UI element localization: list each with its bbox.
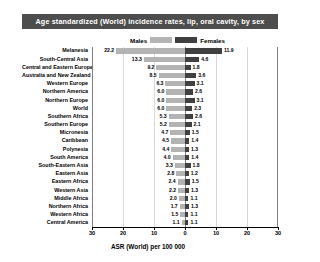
bar-female (185, 163, 191, 168)
bar-male (176, 171, 185, 176)
bar-row: 2.01.1 (92, 195, 278, 202)
bar-value-male: 9.2 (143, 64, 154, 71)
bar-female (185, 48, 222, 53)
bar-row: 1.51.1 (92, 211, 278, 218)
bar-value-male: 6.3 (152, 80, 163, 87)
bar-value-female: 2.3 (194, 105, 201, 112)
axis-tick-label: 0 (183, 230, 186, 236)
bar-value-male: 2.8 (163, 170, 174, 177)
bar-value-male: 6.0 (153, 97, 164, 104)
bar-value-female: 1.2 (191, 170, 198, 177)
bar-male (169, 114, 185, 119)
bar-male (171, 138, 185, 143)
bar-row: 2.21.3 (92, 187, 278, 194)
bar-value-male: 2.0 (166, 195, 177, 202)
bar-value-female: 3.1 (197, 80, 204, 87)
bar-female (185, 106, 192, 111)
category-label: Southern Africa (22, 113, 88, 120)
bar-row: 1.71.3 (92, 203, 278, 210)
bar-female (185, 179, 190, 184)
bar-value-female: 1.1 (190, 211, 197, 218)
bar-row: 6.03.1 (92, 97, 278, 104)
bar-row: 2.41.5 (92, 178, 278, 185)
bar-value-female: 2.6 (195, 88, 202, 95)
bar-value-male: 1.1 (169, 219, 180, 226)
category-label: Australia and New Zealand (22, 72, 88, 79)
bar-female (185, 65, 191, 70)
axis-tick-label: 10 (151, 230, 157, 236)
bar-value-female: 2.6 (195, 113, 202, 120)
category-label: Middle Africa (22, 195, 88, 202)
bar-row: 4.51.4 (92, 137, 278, 144)
bar-row: 8.53.6 (92, 72, 278, 79)
chart-title-bar: Age standardized (World) incidence rates… (22, 14, 278, 29)
bar-male (169, 122, 185, 127)
chart-legend: Males Females (130, 35, 225, 45)
bar-value-male: 8.5 (146, 72, 157, 79)
bar-female (185, 130, 190, 135)
x-axis-ticks: 3020100102030 (92, 227, 278, 237)
bar-value-female: 1.4 (191, 137, 198, 144)
category-label: Melanesia (22, 47, 88, 54)
plot-area: MelanesiaSouth-Central AsiaCentral and E… (22, 47, 278, 227)
bar-row: 13.34.6 (92, 56, 278, 63)
category-label: Western Europe (22, 80, 88, 87)
bar-value-female: 3.6 (198, 72, 205, 79)
bar-value-male: 6.0 (153, 105, 164, 112)
bar-male (116, 48, 185, 53)
category-label: South-Central Asia (22, 56, 88, 63)
bar-row: 4.01.4 (92, 154, 278, 161)
legend-swatch-females (175, 37, 197, 43)
category-label: Western Asia (22, 187, 88, 194)
bar-row: 4.71.5 (92, 129, 278, 136)
bar-value-male: 22.2 (103, 47, 114, 54)
bar-male (159, 73, 185, 78)
category-label: World (22, 105, 88, 112)
bar-male (175, 163, 185, 168)
bar-value-female: 1.3 (191, 203, 198, 210)
bar-female (185, 196, 188, 201)
bar-female (185, 212, 188, 217)
bar-value-female: 3.1 (197, 97, 204, 104)
bar-row: 2.81.2 (92, 170, 278, 177)
category-label: Eastern Africa (22, 178, 88, 185)
bar-male (171, 147, 185, 152)
bar-value-male: 4.5 (158, 137, 169, 144)
bar-female (185, 147, 189, 152)
category-label: Caribbean (22, 137, 88, 144)
bar-male (144, 57, 185, 62)
bars-area: 22.211.913.34.69.21.88.53.66.33.16.02.66… (92, 47, 278, 227)
bar-value-male: 4.7 (157, 129, 168, 136)
bar-value-male: 4.0 (160, 154, 171, 161)
page-title: Age standardized (World) incidence rates… (36, 17, 265, 26)
bar-row: 22.211.9 (92, 47, 278, 54)
bar-male (173, 155, 185, 160)
bar-female (185, 73, 196, 78)
bar-male (165, 81, 185, 86)
bar-value-female: 1.5 (192, 178, 199, 185)
bar-value-male: 13.3 (131, 56, 142, 63)
category-label-column: MelanesiaSouth-Central AsiaCentral and E… (22, 47, 92, 227)
bar-value-female: 2.1 (194, 121, 201, 128)
bar-row: 5.22.1 (92, 121, 278, 128)
bar-row: 5.32.6 (92, 113, 278, 120)
legend-swatch-males (150, 37, 172, 43)
bar-value-male: 1.7 (167, 203, 178, 210)
bar-value-male: 5.3 (156, 113, 167, 120)
axis-tick-label: 20 (120, 230, 126, 236)
bar-row: 9.21.8 (92, 64, 278, 71)
axis-tick-label: 30 (89, 230, 95, 236)
bar-value-male: 5.2 (156, 121, 167, 128)
bar-value-female: 11.9 (224, 47, 234, 54)
legend-label-females: Females (200, 37, 225, 44)
category-label: South-Eastern Asia (22, 162, 88, 169)
bar-value-female: 1.8 (193, 64, 200, 71)
bar-male (156, 65, 185, 70)
category-label: Northern Africa (22, 203, 88, 210)
bar-male (178, 188, 185, 193)
bar-value-female: 1.5 (192, 129, 199, 136)
bar-value-female: 1.1 (190, 219, 197, 226)
bar-female (185, 81, 195, 86)
bar-female (185, 122, 192, 127)
bar-row: 4.41.3 (92, 146, 278, 153)
